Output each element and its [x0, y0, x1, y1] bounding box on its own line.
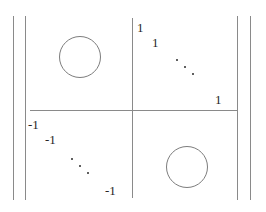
matrix-entry-top-right-2: 1	[152, 36, 159, 49]
vertical-partition-rule	[132, 18, 133, 198]
left-inner-delimiter-bar	[25, 16, 26, 200]
diagonal-ellipsis-icon-bottom-left	[70, 157, 92, 175]
zero-block-top-left	[59, 36, 101, 78]
left-outer-delimiter-bar	[13, 16, 14, 200]
diagonal-ellipsis-icon-top-right	[175, 58, 197, 76]
zero-block-bottom-right	[166, 146, 208, 188]
block-matrix-figure: 1 1 1 -1 -1 -1	[0, 0, 266, 212]
matrix-entry-top-right-3: 1	[215, 93, 222, 106]
matrix-entry-top-right-1: 1	[137, 21, 144, 34]
right-inner-delimiter-bar	[237, 16, 238, 200]
matrix-entry-bottom-left-3: -1	[105, 184, 116, 197]
horizontal-partition-rule	[30, 110, 237, 111]
matrix-entry-bottom-left-2: -1	[45, 133, 56, 146]
matrix-entry-bottom-left-1: -1	[28, 118, 39, 131]
right-outer-delimiter-bar	[250, 16, 251, 200]
